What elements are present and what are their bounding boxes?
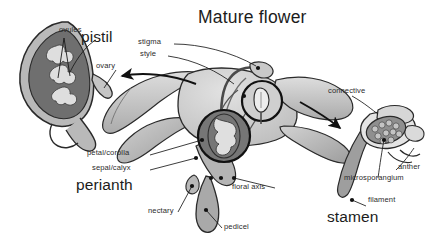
label-stigma: stigma — [138, 38, 161, 46]
label-filament: filament — [368, 196, 395, 204]
label-style: style — [140, 50, 156, 58]
label-microsporangium: microsporangium — [344, 174, 404, 182]
label-anther: anther — [398, 163, 420, 171]
label-nectary: nectary — [148, 207, 174, 215]
heading-perianth: perianth — [76, 177, 133, 193]
figure-title: Mature flower — [198, 9, 307, 27]
heading-pistil: pistil — [81, 29, 113, 45]
label-connective: connective — [328, 87, 365, 95]
label-pedicel: pedicel — [224, 223, 249, 231]
ovary-magnifier-inset — [198, 110, 250, 162]
label-sepal-calyx: sepal/calyx — [92, 164, 131, 172]
label-petal-corolla: petal/corolla — [87, 149, 129, 157]
label-ovary: ovary — [96, 62, 115, 70]
diagram-artwork — [0, 0, 446, 244]
stamen-inset-illustration — [338, 106, 424, 198]
flower-diagram-canvas: Mature flower ovules pistil ovary stigma… — [0, 0, 446, 244]
heading-stamen: stamen — [327, 209, 378, 225]
label-ovules: ovules — [59, 26, 82, 34]
label-floral-axis: floral axis — [232, 183, 265, 191]
